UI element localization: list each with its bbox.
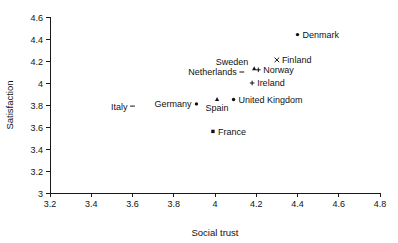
x-tick-label: 4 <box>212 199 217 209</box>
data-point-label: Ireland <box>257 78 285 88</box>
x-tick-label: 3.6 <box>126 199 139 209</box>
y-tick-label: 4.2 <box>30 57 43 67</box>
x-tick-label: 3.8 <box>167 199 180 209</box>
y-tick-label: 4.4 <box>30 35 43 45</box>
data-point: Netherlands <box>188 67 244 77</box>
data-point-label: Denmark <box>303 30 340 40</box>
data-point-label: Germany <box>154 99 192 109</box>
x-axis-title: Social trust <box>192 227 239 238</box>
data-point-label: Finland <box>282 55 312 65</box>
data-point: Germany <box>154 99 198 109</box>
data-point: Italy <box>111 102 135 112</box>
y-tick-label: 4 <box>38 79 43 89</box>
data-points-group: DenmarkFinlandSwedenNorwayNetherlandsIre… <box>111 30 340 137</box>
data-point: France <box>211 127 246 137</box>
marker-dot-icon <box>296 33 299 36</box>
data-point: Norway <box>256 65 294 75</box>
data-point-label: Italy <box>111 102 128 112</box>
x-tick-label: 4.8 <box>374 199 387 209</box>
y-tick-label: 4.6 <box>30 13 43 23</box>
marker-triangle-icon <box>252 66 256 70</box>
y-tick-label: 3.2 <box>30 167 43 177</box>
y-axis-title: Satisfaction <box>4 80 15 129</box>
data-point-label: Sweden <box>216 57 249 67</box>
x-tick-label: 4.6 <box>332 199 345 209</box>
y-tick-label: 3.8 <box>30 101 43 111</box>
marker-dot-icon <box>195 102 198 105</box>
marker-cross-icon <box>275 58 280 63</box>
scatter-plot: 3.23.43.63.844.24.44.64.8 33.23.43.63.84… <box>0 0 398 243</box>
data-point: Denmark <box>296 30 340 40</box>
chart-container: 3.23.43.63.844.24.44.64.8 33.23.43.63.84… <box>0 0 398 243</box>
marker-plus-icon <box>250 81 255 86</box>
x-tick-label: 3.4 <box>85 199 98 209</box>
y-tick-label: 3.4 <box>30 145 43 155</box>
x-tick-group: 3.23.43.63.844.24.44.64.8 <box>44 193 387 209</box>
x-tick-label: 3.2 <box>44 199 57 209</box>
data-point-label: Spain <box>206 103 229 113</box>
data-point: United Kingdom <box>232 95 303 105</box>
x-tick-label: 4.2 <box>250 199 263 209</box>
marker-plus-icon <box>256 68 261 73</box>
data-point: Finland <box>275 55 312 65</box>
x-tick-label: 4.4 <box>291 199 304 209</box>
marker-square-icon <box>211 130 214 133</box>
y-tick-group: 33.23.43.63.844.24.44.6 <box>30 13 50 199</box>
data-point-label: United Kingdom <box>239 95 303 105</box>
marker-dot-icon <box>232 98 235 101</box>
data-point: Spain <box>206 97 229 112</box>
y-tick-label: 3.6 <box>30 123 43 133</box>
data-point: Ireland <box>250 78 285 88</box>
data-point-label: France <box>218 127 246 137</box>
y-tick-label: 3 <box>38 189 43 199</box>
data-point-label: Netherlands <box>188 67 237 77</box>
marker-triangle-icon <box>215 97 219 101</box>
data-point-label: Norway <box>263 65 294 75</box>
